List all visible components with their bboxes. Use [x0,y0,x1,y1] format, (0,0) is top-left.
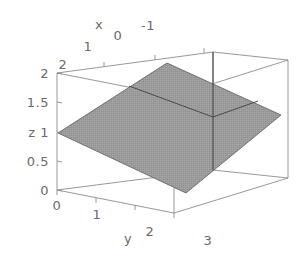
z-tick-2 [57,73,62,74]
z-tick-0 [57,190,62,191]
x-tick-label-0: 0 [114,28,123,43]
box-edge-bottom-rear-right [213,170,288,178]
y-tick-label-0: 0 [53,198,62,213]
x-tick-label-minus1: -1 [141,18,155,33]
box-edge-top-rear-right [213,52,288,60]
z-tick-label-0: 0 [40,183,49,198]
x-tick-label-1: 1 [84,39,93,54]
plot-canvas: 1 0 -1 x 2 2 1.5 1 0.5 0 z 0 1 2 3 y [0,0,298,262]
z-tick-label-2: 2 [40,66,49,81]
y-tick-label-3: 3 [204,233,213,248]
box-edge-bottom-front-left [57,190,174,213]
z-corner-tick-label: 2 [59,57,68,72]
z-tick-label-0p5: 0.5 [27,154,49,169]
z-axis-label: z [28,125,35,140]
z-tick-1p5 [57,102,62,103]
y-tick-label-2: 2 [146,224,155,239]
z-tick-label-1p5: 1.5 [27,95,49,110]
x-axis-label: x [95,17,103,32]
z-tick-label-1: 1 [40,125,49,140]
z-tick-0p5 [57,161,62,162]
plot-3d-surface: 1 0 -1 x 2 2 1.5 1 0.5 0 z 0 1 2 3 y [0,0,298,262]
y-axis-label: y [124,231,132,246]
y-tick-label-1: 1 [93,207,102,222]
box-edge-top-rear-left [57,52,213,73]
